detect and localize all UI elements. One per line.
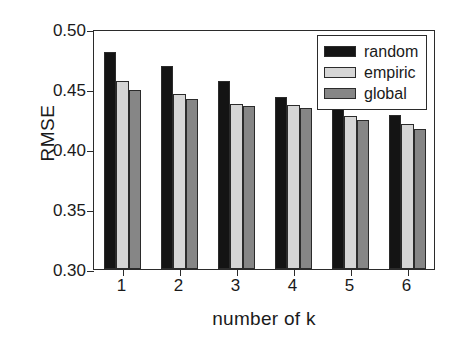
x-axis-tick-mark xyxy=(123,269,124,276)
legend-label: random xyxy=(364,43,418,61)
x-axis-tick-label: 1 xyxy=(102,276,142,296)
y-axis-tick-mark xyxy=(87,211,94,212)
x-axis-tick-label: 2 xyxy=(159,276,199,296)
legend-swatch-global xyxy=(324,88,356,99)
bar-global-k4 xyxy=(300,108,313,269)
x-axis-tick-label: 4 xyxy=(273,276,313,296)
bar-random-k1 xyxy=(104,52,117,269)
y-axis-tick-mark xyxy=(87,271,94,272)
x-axis-tick-mark xyxy=(351,269,352,276)
y-axis-tick-label: 0.30 xyxy=(34,262,86,279)
y-axis-tick-labels: 0.300.350.400.450.50 xyxy=(30,0,86,348)
legend-label: empiric xyxy=(364,64,416,82)
x-axis-tick-label: 5 xyxy=(330,276,370,296)
x-axis-title: number of k xyxy=(93,308,435,330)
legend-item-global: global xyxy=(324,83,418,104)
legend-item-empiric: empiric xyxy=(324,62,418,83)
legend-swatch-random xyxy=(324,46,356,57)
x-axis-tick-label: 6 xyxy=(387,276,427,296)
bar-global-k5 xyxy=(357,120,370,269)
bar-empiric-k1 xyxy=(116,81,129,269)
y-axis-tick-mark xyxy=(87,91,94,92)
x-axis-tick-label: 3 xyxy=(216,276,256,296)
bar-global-k6 xyxy=(414,129,427,269)
rmse-bar-chart: RMSE 0.300.350.400.450.50 123456 number … xyxy=(0,0,458,348)
bar-empiric-k4 xyxy=(287,105,300,269)
y-axis-tick-label: 0.40 xyxy=(34,142,86,159)
bar-random-k6 xyxy=(389,115,402,269)
x-axis-tick-mark xyxy=(408,269,409,276)
y-axis-tick-label: 0.35 xyxy=(34,202,86,219)
bar-random-k3 xyxy=(218,81,231,269)
x-axis-tick-labels: 123456 xyxy=(93,276,435,302)
bar-global-k1 xyxy=(129,90,142,269)
x-axis-tick-mark xyxy=(180,269,181,276)
y-axis-tick-mark xyxy=(87,151,94,152)
bar-random-k4 xyxy=(275,97,288,269)
y-axis-tick-label: 0.50 xyxy=(34,22,86,39)
legend-label: global xyxy=(364,85,407,103)
bar-empiric-k2 xyxy=(173,94,186,269)
bar-empiric-k6 xyxy=(401,124,414,269)
bar-empiric-k3 xyxy=(230,104,243,269)
bar-empiric-k5 xyxy=(344,116,357,269)
y-axis-tick-label: 0.45 xyxy=(34,82,86,99)
bar-random-k2 xyxy=(161,66,174,269)
chart-legend: randomempiricglobal xyxy=(317,35,427,110)
legend-swatch-empiric xyxy=(324,67,356,78)
bar-global-k2 xyxy=(186,99,199,269)
x-axis-tick-mark xyxy=(237,269,238,276)
x-axis-tick-mark xyxy=(294,269,295,276)
legend-item-random: random xyxy=(324,41,418,62)
y-axis-tick-mark xyxy=(87,31,94,32)
bar-random-k5 xyxy=(332,109,345,269)
bar-global-k3 xyxy=(243,106,256,269)
